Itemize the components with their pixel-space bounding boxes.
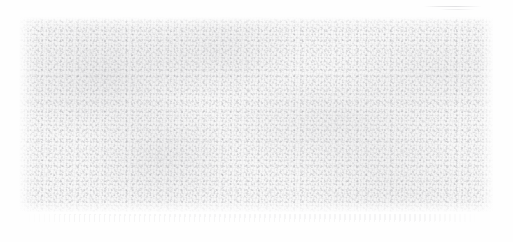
top-streak-artifact [424, 6, 482, 7]
residual-band-artifact [24, 214, 480, 222]
top-streak-artifact-secondary [440, 9, 474, 10]
surface-text-content [19, 17, 493, 212]
textured-surface-panel [19, 17, 493, 212]
screenshot-canvas [0, 0, 513, 242]
